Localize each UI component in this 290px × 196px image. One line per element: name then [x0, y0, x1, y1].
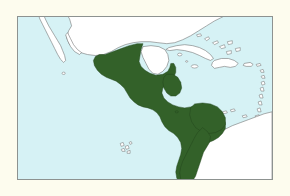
isla-de-la-juventud — [178, 53, 182, 56]
antilles-islet-8 — [257, 108, 261, 112]
cayman-islet — [186, 61, 188, 63]
range-islet-coiba — [175, 111, 178, 113]
antilles-islet-6 — [259, 94, 263, 98]
antilles-islet-4 — [261, 81, 265, 85]
bahamas-islet-5 — [226, 51, 231, 55]
map-canvas — [18, 17, 272, 179]
bahamas-islet-4 — [227, 41, 232, 45]
range-map-figure — [0, 0, 290, 196]
galapagos-islet-2 — [125, 145, 129, 149]
revillagigedo-islet — [62, 72, 65, 74]
bahamas-islet-6 — [235, 48, 240, 52]
jamaica-island — [191, 65, 198, 68]
map-frame — [17, 16, 273, 180]
antilles-islet-7 — [258, 101, 262, 105]
galapagos-islet-1 — [120, 142, 124, 146]
antilles-islet-5 — [260, 87, 264, 91]
